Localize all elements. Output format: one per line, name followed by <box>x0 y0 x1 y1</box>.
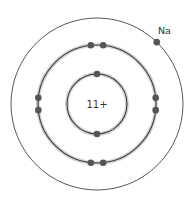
nucleus-charge-label: 11+ <box>86 99 107 110</box>
electron-second-shell-4 <box>35 107 42 114</box>
element-symbol-label: Na <box>158 25 171 36</box>
bohr-model-diagram: 11+ Na <box>0 0 195 205</box>
electron-first-shell-2 <box>94 131 101 138</box>
electron-third-shell-1 <box>153 39 160 46</box>
electron-second-shell-6 <box>100 159 107 166</box>
electron-second-shell-7 <box>152 107 159 114</box>
electron-second-shell-3 <box>35 95 42 102</box>
electron-second-shell-2 <box>88 42 95 49</box>
electron-second-shell-1 <box>100 42 107 49</box>
electron-first-shell-1 <box>94 71 101 78</box>
electron-second-shell-8 <box>152 95 159 102</box>
electron-second-shell-5 <box>88 159 95 166</box>
